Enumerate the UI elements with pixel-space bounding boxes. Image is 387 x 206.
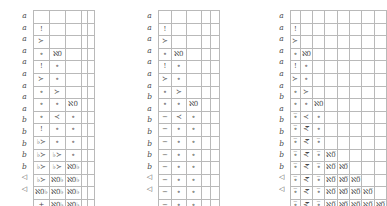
cell-symbol: ≺̅ (303, 152, 309, 159)
grid-cell: ≻ (34, 73, 50, 86)
cell-symbol: − (162, 164, 168, 171)
grid-cell (186, 23, 201, 36)
grid-cell: ℵ0̅ (325, 149, 337, 162)
cell-symbol: ∘ (177, 164, 180, 171)
cell-symbol: ∘ (192, 177, 195, 184)
table-row: ! (159, 23, 220, 36)
grid-cell: ℵ0̅ (374, 199, 386, 206)
table-row: !∘ (159, 61, 220, 74)
grid-cell: ! (291, 23, 301, 36)
cell-symbol: ∘ (177, 152, 180, 159)
grid-cell (325, 36, 337, 49)
row-label: a (19, 45, 30, 57)
grid-cell (210, 136, 219, 149)
table-row: ≻ (34, 36, 95, 49)
tableau-grid: !≻∘ℵ0!∘≻∘∘≻∘∘ℵ0∘̅≺∘∘̅≺̅∘∘̅≺̅∘̅∘̅≺̅∘̅ℵ0̅∘… (290, 10, 387, 206)
cell-symbol: ℵ0̅ (326, 164, 335, 171)
cell-symbol: − (162, 152, 168, 159)
grid-cell: ≺̅ (300, 187, 312, 200)
grid-cell: ≻ (34, 36, 50, 49)
cell-symbol: ∘ (40, 51, 43, 58)
grid-cell: ∘̅ (312, 149, 324, 162)
table-row: ≻∘ (291, 73, 387, 86)
grid-cell: ! (159, 23, 172, 36)
grid-cell (337, 48, 349, 61)
grid-cell: − (159, 124, 172, 137)
grid-cell (362, 23, 374, 36)
cell-symbol: ℵ0̅ (376, 202, 385, 206)
grid-cell (337, 23, 349, 36)
table-row: ≻ (159, 36, 220, 49)
grid-cell (325, 111, 337, 124)
grid-cell: ∘ (171, 124, 186, 137)
cell-symbol: ℵ0♭ (51, 202, 64, 206)
cell-symbol: ∘̅ (317, 177, 320, 184)
cell-symbol: ∘ (317, 126, 320, 133)
cell-symbol: ℵ0♭ (67, 189, 80, 196)
table-row: ∘≻ (159, 86, 220, 99)
cell-symbol: ∘̅ (294, 177, 297, 184)
cell-symbol: ∘ (40, 89, 43, 96)
grid-cell (312, 73, 324, 86)
grid-cell: ♭≻ (34, 174, 50, 187)
grid-cell: ∘ (171, 174, 186, 187)
grid-cell (210, 86, 219, 99)
grid-cell: ∘ (300, 73, 312, 86)
grid-cell (81, 48, 88, 61)
grid-cell (362, 11, 374, 24)
grid-cell (349, 162, 361, 175)
grid-cell (186, 86, 201, 99)
grid-cell: ℵ0̅ (337, 174, 349, 187)
grid-cell (171, 11, 186, 24)
grid-cell: ≺ (171, 111, 186, 124)
grid-cell: ℵ0 (171, 48, 186, 61)
cell-symbol: ! (40, 126, 43, 133)
grid-cell: ℵ0 (65, 99, 81, 112)
grid-cell (300, 23, 312, 36)
cell-symbol: ∘ (192, 114, 195, 121)
grid-cell (88, 149, 95, 162)
grid-cell: ≺̅ (300, 124, 312, 137)
tableau-grid: !≻∘ℵ0!∘≻∘∘≻∘∘ℵ0−≺∘−∘∘−∘∘−∘∘−∘∘−∘∘−∘∘−∘∘ (158, 10, 220, 206)
cell-symbol: ∘̅ (294, 126, 297, 133)
grid-cell (325, 124, 337, 137)
grid-cell (362, 111, 374, 124)
row-label: ◁ (276, 172, 287, 184)
cell-symbol: + (38, 202, 44, 206)
grid-cell: ∘ (65, 149, 81, 162)
grid-cell (88, 124, 95, 137)
grid-cell (374, 111, 386, 124)
grid-cell: ∘ (186, 124, 201, 137)
row-label: b (144, 161, 155, 173)
row-label: b (144, 91, 155, 103)
grid-cell: ♭≻ (34, 136, 50, 149)
cell-symbol: ℵ0̅ (363, 202, 372, 206)
grid-cell: ! (291, 61, 301, 74)
row-label: a (19, 68, 30, 80)
grid-cell (374, 124, 386, 137)
grid-cell (81, 99, 88, 112)
grid-cell: ∘ (171, 162, 186, 175)
cell-symbol: ∘̅ (294, 189, 297, 196)
grid-cell: ∘ (171, 149, 186, 162)
grid-cell (325, 23, 337, 36)
cell-symbol: ∘ (163, 51, 166, 58)
grid-cell: ∘ (186, 174, 201, 187)
grid-cell (210, 162, 219, 175)
row-label: a (276, 33, 287, 45)
grid-cell: ℵ0̅ (337, 199, 349, 206)
grid-cell (201, 99, 210, 112)
grid-cell: ∘ (171, 73, 186, 86)
grid-cell (81, 199, 88, 206)
grid-cell (337, 11, 349, 24)
grid-cell (81, 124, 88, 137)
cell-symbol: ∘ (56, 126, 59, 133)
cell-symbol: ℵ0̅ (326, 177, 335, 184)
cell-symbol: − (162, 139, 168, 146)
table-row: ♭≻♭≻ℵ0♭ (34, 162, 95, 175)
grid-cell (201, 36, 210, 49)
cell-symbol: ≺ (176, 114, 182, 121)
grid-cell (374, 162, 386, 175)
grid-cell: ∘̅ (291, 174, 301, 187)
grid-cell: ≺̅ (300, 162, 312, 175)
